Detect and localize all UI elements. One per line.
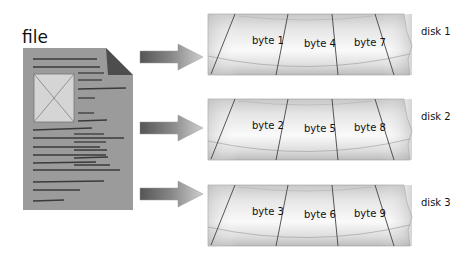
byte-label: byte 5 <box>304 123 336 134</box>
disk-label: disk 1 <box>421 26 451 37</box>
arrow-icon <box>140 181 203 207</box>
byte-label: byte 6 <box>304 209 336 220</box>
document-icon <box>23 48 133 210</box>
disk-label: disk 3 <box>421 197 451 208</box>
disk-1: byte 1byte 4byte 7disk 1 <box>208 14 451 75</box>
disk-3: byte 3byte 6byte 9disk 3 <box>208 185 451 246</box>
disk-label: disk 2 <box>421 111 451 122</box>
disk-2: byte 2byte 5byte 8disk 2 <box>208 99 451 160</box>
file-label: file <box>22 27 48 47</box>
page-fold <box>106 48 133 75</box>
arrow-icon <box>140 44 203 70</box>
arrow-icon <box>140 115 203 141</box>
striping-diagram: file <box>0 0 471 264</box>
byte-label: byte 3 <box>252 206 284 217</box>
byte-label: byte 2 <box>252 120 284 131</box>
byte-label: byte 8 <box>354 122 386 133</box>
byte-label: byte 7 <box>354 37 386 48</box>
byte-label: byte 9 <box>354 208 386 219</box>
byte-label: byte 4 <box>304 38 336 49</box>
byte-label: byte 1 <box>252 35 284 46</box>
